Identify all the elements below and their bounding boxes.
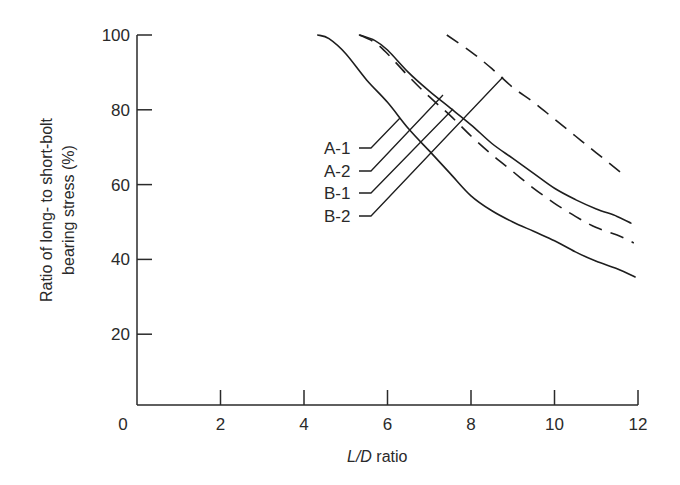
series-curve-a-2 bbox=[360, 35, 631, 223]
series-curve-b-2 bbox=[447, 35, 620, 172]
series-label-b-1: B-1 bbox=[324, 184, 350, 203]
data-series bbox=[318, 35, 635, 277]
chart: Ratio of long- to short-bolt bearing str… bbox=[0, 0, 680, 485]
leader-line-a-1 bbox=[359, 118, 400, 148]
series-curve-a-1 bbox=[318, 35, 635, 277]
y-tick-label: 100 bbox=[102, 26, 130, 45]
y-tick-label: 60 bbox=[111, 176, 130, 195]
y-tick-label: 40 bbox=[111, 250, 130, 269]
tick-labels: 20406080100024681012 bbox=[102, 26, 648, 434]
tick-marks bbox=[137, 35, 638, 405]
x-tick-label: 8 bbox=[466, 415, 475, 434]
x-tick-label: 4 bbox=[299, 415, 308, 434]
x-axis-title-plain: ratio bbox=[372, 448, 408, 465]
x-tick-label: 0 bbox=[118, 415, 127, 434]
series-label-a-2: A-2 bbox=[324, 162, 350, 181]
x-axis-title: L/D ratio bbox=[347, 448, 408, 465]
x-tick-label: 2 bbox=[216, 415, 225, 434]
y-axis-title: Ratio of long- to short-bolt bearing str… bbox=[38, 117, 77, 302]
x-axis-title-italic: L/D bbox=[347, 448, 372, 465]
x-tick-label: 6 bbox=[383, 415, 392, 434]
y-tick-label: 20 bbox=[111, 325, 130, 344]
x-tick-label: 12 bbox=[629, 415, 648, 434]
y-axis-title-line-1: Ratio of long- to short-bolt bbox=[38, 117, 55, 302]
series-label-a-1: A-1 bbox=[324, 139, 350, 158]
y-axis-title-line-2: bearing stress (%) bbox=[60, 145, 77, 275]
x-tick-label: 10 bbox=[545, 415, 564, 434]
series-labels: A-1A-2B-1B-2 bbox=[324, 139, 350, 226]
series-label-b-2: B-2 bbox=[324, 207, 350, 226]
leader-line-b-1 bbox=[359, 109, 453, 193]
axes bbox=[137, 35, 638, 405]
y-tick-label: 80 bbox=[111, 101, 130, 120]
